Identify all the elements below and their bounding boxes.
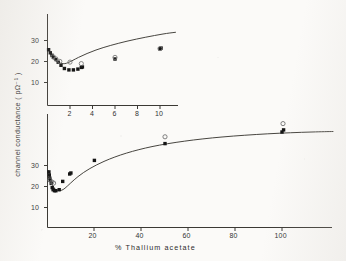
y-axis-title: channel conductance ( pΩ⁻¹ ) bbox=[13, 50, 22, 200]
inset-y-tick-30: 30 bbox=[31, 37, 39, 44]
inset-x-tick-10: 10 bbox=[155, 110, 163, 117]
main-y-tick-10: 10 bbox=[31, 204, 39, 211]
main-open-circle-markers bbox=[48, 122, 285, 186]
inset-filled-markers bbox=[47, 46, 163, 71]
main-x-tick-100: 100 bbox=[275, 232, 287, 239]
main-x-tick-60: 60 bbox=[183, 232, 191, 239]
main-x-axis bbox=[48, 228, 333, 232]
inset-x-tick-6: 6 bbox=[113, 110, 117, 117]
main-fitted-curve bbox=[48, 132, 333, 191]
main-x-tick-20: 20 bbox=[89, 232, 97, 239]
figure-container: channel conductance ( pΩ⁻¹ ) % Thallium … bbox=[0, 0, 346, 261]
main-y-axis bbox=[44, 114, 48, 228]
inset-y-tick-10: 10 bbox=[31, 79, 39, 86]
inset-open-circle-markers bbox=[51, 47, 162, 66]
main-x-tick-40: 40 bbox=[136, 232, 144, 239]
inset-fitted-curve bbox=[48, 32, 175, 63]
inset-x-tick-4: 4 bbox=[90, 110, 94, 117]
inset-y-tick-20: 20 bbox=[31, 58, 39, 65]
figure-canvas bbox=[0, 0, 346, 261]
main-x-tick-80: 80 bbox=[230, 232, 238, 239]
inset-x-tick-2: 2 bbox=[68, 110, 72, 117]
inset-x-axis bbox=[48, 106, 179, 110]
main-y-tick-20: 20 bbox=[31, 183, 39, 190]
inset-x-tick-8: 8 bbox=[135, 110, 139, 117]
main-filled-markers bbox=[47, 128, 285, 192]
inset-y-axis bbox=[44, 14, 48, 106]
x-axis-title: % Thallium acetate bbox=[115, 243, 196, 252]
main-y-tick-30: 30 bbox=[31, 162, 39, 169]
